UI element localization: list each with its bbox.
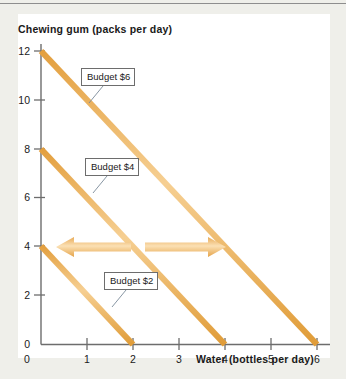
x-tick-label-6: 6 (309, 353, 325, 365)
callout-budget-4: Budget $4 (85, 158, 139, 176)
chart-canvas (0, 0, 346, 379)
y-tick-label-6: 6 (8, 191, 30, 203)
x-tick-label-5: 5 (263, 353, 279, 365)
y-axis-ticks (34, 51, 45, 295)
y-tick-label-10: 10 (8, 94, 30, 106)
increase-arrow (145, 237, 226, 257)
x-tick-label-2: 2 (125, 353, 141, 365)
figure-container: Chewing gum (packs per day) Water (bottl… (0, 0, 346, 379)
callout-budget-2: Budget $2 (104, 272, 158, 290)
y-tick-label-8: 8 (8, 143, 30, 155)
x-tick-label-1: 1 (79, 353, 95, 365)
decrease-arrow (56, 237, 131, 257)
leader-budget-2 (112, 290, 126, 307)
x-tick-label-3: 3 (171, 353, 187, 365)
y-tick-label-4: 4 (8, 240, 30, 252)
y-tick-label-12: 12 (8, 45, 30, 57)
y-tick-label-2: 2 (8, 289, 30, 301)
budget-line-6 (41, 51, 317, 345)
leader-budget-6 (89, 86, 103, 103)
budget-lines (41, 51, 317, 345)
y-tick-label-0: 0 (8, 338, 30, 350)
callout-budget-6: Budget $6 (81, 68, 135, 86)
budget-line-2 (41, 246, 133, 345)
x-tick-label-4: 4 (217, 353, 233, 365)
leader-budget-4 (93, 176, 107, 193)
x-tick-label-0: 0 (19, 353, 35, 365)
